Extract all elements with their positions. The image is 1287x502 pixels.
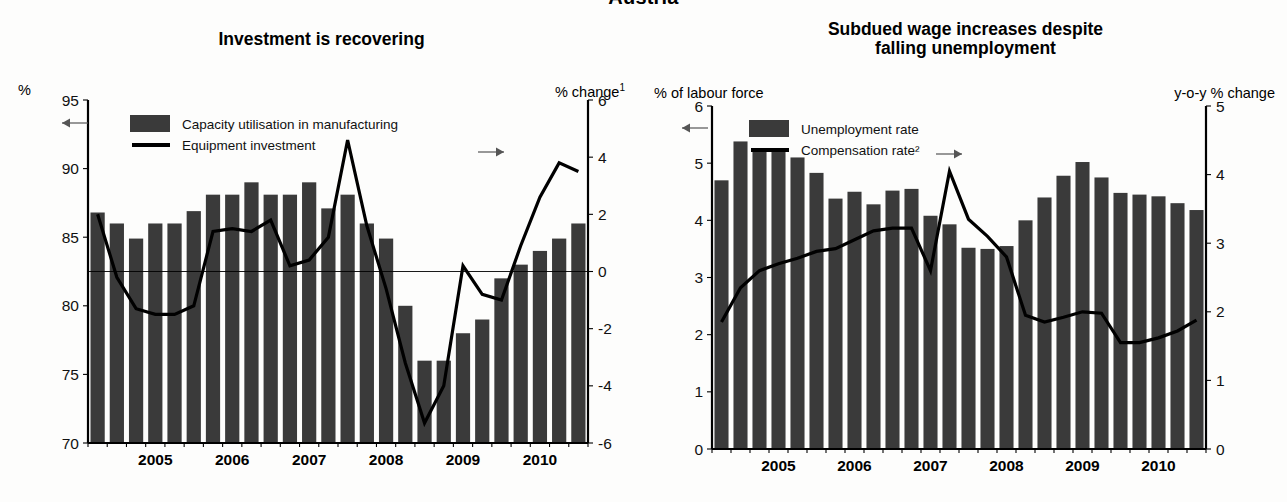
bar: [1170, 203, 1184, 449]
bar: [828, 199, 842, 449]
legend-bar-swatch: [130, 115, 170, 132]
x-tick-label: 2010: [1141, 457, 1175, 474]
y-tick-label-right: 4: [598, 149, 607, 166]
legend-label-bar: Unemployment rate: [801, 122, 919, 137]
bar: [187, 211, 201, 443]
bar: [1018, 220, 1032, 449]
legend-label-bar: Capacity utilisation in manufacturing: [182, 117, 398, 132]
y-tick-label-left: 85: [62, 229, 79, 246]
x-tick-label: 2008: [989, 457, 1024, 474]
bar: [752, 151, 766, 449]
y-tick-label-left: 2: [694, 326, 703, 343]
x-tick-label: 2006: [215, 451, 250, 468]
y-tick-label-right: -4: [598, 377, 612, 394]
bar: [456, 333, 470, 443]
x-tick-label: 2005: [138, 451, 173, 468]
bar: [129, 239, 143, 443]
bar: [244, 182, 258, 443]
bar: [360, 223, 374, 443]
bar: [533, 251, 547, 443]
panel-wages: Subdued wage increases despite falling u…: [644, 0, 1287, 502]
y-tick-label-left: 75: [62, 366, 79, 383]
y-tick-label-right: 3: [1216, 235, 1225, 252]
x-tick-label: 2006: [837, 457, 872, 474]
x-tick-label: 2009: [446, 451, 481, 468]
bar: [148, 223, 162, 443]
y-tick-label-left: 5: [694, 155, 703, 172]
bar: [91, 213, 105, 444]
bar: [1113, 193, 1127, 449]
left-axis-arrow: [682, 124, 708, 133]
y-tick-label-right: 0: [1216, 441, 1225, 458]
y-tick-label-left: 6: [694, 98, 703, 115]
y-tick-label-left: 4: [694, 212, 703, 229]
x-tick-label: 2007: [913, 457, 947, 474]
bar: [1075, 162, 1089, 449]
right-axis-arrow: [478, 148, 504, 157]
bar: [1189, 210, 1203, 449]
y-tick-label-right: 5: [1216, 98, 1225, 115]
bar: [847, 192, 861, 449]
bar: [475, 320, 489, 443]
bar: [771, 152, 785, 449]
bar: [225, 195, 239, 443]
y-tick-label-right: 6: [598, 92, 607, 109]
y-tick-label-right: -6: [598, 435, 612, 452]
y-tick-label-right: 0: [598, 263, 607, 280]
y-tick-label-left: 70: [62, 435, 80, 452]
bar: [167, 223, 181, 443]
y-tick-label-left: 1: [694, 383, 703, 400]
x-tick-label: 2008: [369, 451, 404, 468]
bar: [283, 195, 297, 443]
bar: [437, 361, 451, 443]
bar: [1151, 196, 1165, 449]
legend-label-line: Equipment investment: [182, 138, 316, 153]
bar: [552, 239, 566, 443]
bar: [1056, 176, 1070, 449]
y-tick-label-left: 80: [62, 297, 80, 314]
legend-label-line: Compensation rate²: [801, 143, 920, 158]
y-tick-label-right: 1: [1216, 372, 1225, 389]
right-axis-arrow: [936, 150, 962, 159]
x-tick-label: 2009: [1065, 457, 1100, 474]
y-tick-label-right: 2: [598, 206, 607, 223]
x-tick-label: 2005: [761, 457, 796, 474]
bar: [302, 182, 316, 443]
chart-svg-wages: 6543210543210200520062007200820092010Une…: [644, 0, 1287, 502]
x-tick-label: 2007: [292, 451, 326, 468]
figure-root: Austria Investment is recovering % % cha…: [0, 0, 1287, 502]
bar: [514, 265, 528, 443]
bar: [961, 248, 975, 449]
y-tick-label-left: 90: [62, 160, 80, 177]
bar: [417, 361, 431, 443]
chart-svg-investment: 9590858075706420-2-4-6200520062007200820…: [0, 0, 643, 502]
bar: [571, 223, 585, 443]
bar: [942, 224, 956, 449]
legend: Capacity utilisation in manufacturingEqu…: [130, 115, 398, 153]
bar: [980, 249, 994, 449]
y-tick-label-left: 3: [694, 269, 703, 286]
y-tick-label-left: 0: [694, 441, 703, 458]
chart-wages: 6543210543210200520062007200820092010Une…: [644, 0, 1287, 502]
panel-investment: Investment is recovering % % change1 959…: [0, 0, 643, 502]
legend-bar-swatch: [749, 120, 789, 137]
y-tick-label-right: 4: [1216, 166, 1225, 183]
y-tick-label-left: 95: [62, 92, 79, 109]
bar: [809, 173, 823, 449]
bar: [1132, 195, 1146, 449]
bar: [790, 157, 804, 449]
bar: [494, 278, 508, 443]
bars-group: [91, 182, 586, 443]
y-tick-label-right: 2: [1216, 303, 1225, 320]
x-tick-label: 2010: [523, 451, 557, 468]
bar: [341, 195, 355, 443]
bar: [866, 204, 880, 449]
left-axis-arrow: [62, 119, 88, 128]
chart-investment: 9590858075706420-2-4-6200520062007200820…: [0, 0, 643, 502]
y-tick-label-right: -2: [598, 320, 612, 337]
bars-group: [714, 141, 1203, 449]
